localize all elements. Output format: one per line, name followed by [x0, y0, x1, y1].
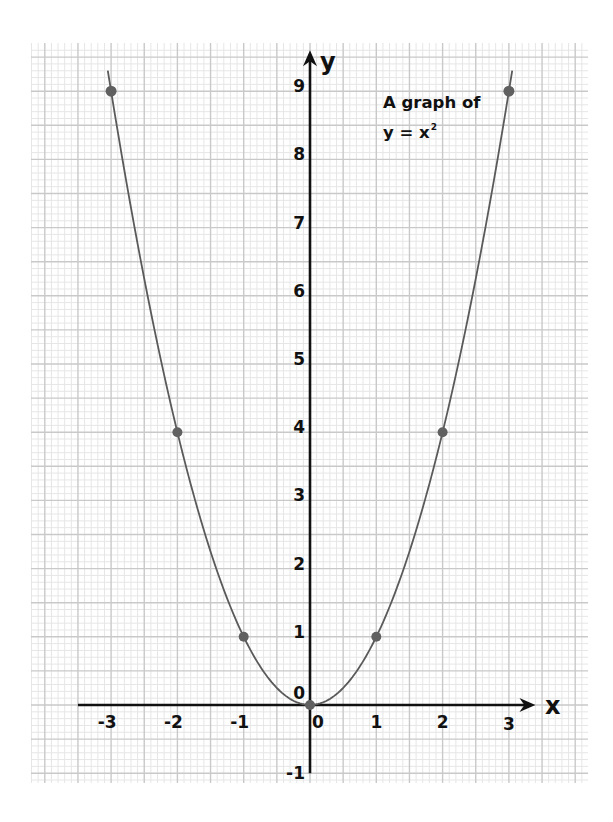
y-tick-label: 7 [293, 213, 305, 233]
x-axis-label: x [545, 692, 561, 720]
y-tick-label: 1 [293, 622, 305, 642]
y-tick-label: -1 [286, 763, 305, 783]
data-point [305, 700, 315, 710]
chart-title-exponent: 2 [431, 122, 437, 132]
data-point [371, 632, 381, 642]
y-tick-label: 8 [293, 144, 305, 164]
y-tick-label: 9 [293, 76, 305, 96]
x-tick-labels: -3-2-10123 [98, 712, 515, 734]
data-point [172, 427, 182, 437]
y-tick-label: 4 [293, 417, 305, 437]
data-point [106, 86, 117, 97]
x-tick-label: 2 [437, 712, 449, 732]
y-tick-labels: -10123456789 [286, 76, 305, 783]
y-tick-label: 6 [293, 281, 305, 301]
y-tick-label: 3 [293, 485, 305, 505]
x-tick-label: 1 [370, 712, 382, 732]
x-tick-label: -1 [230, 712, 249, 732]
data-point [438, 427, 448, 437]
y-axis-label: y [320, 48, 336, 76]
chart-title-line-2: y = x2 [383, 116, 437, 144]
y-tick-label: 0 [293, 683, 305, 703]
x-tick-label: -3 [98, 712, 117, 732]
data-point [503, 86, 514, 97]
y-tick-label: 5 [293, 349, 305, 369]
x-tick-label: -2 [164, 712, 183, 732]
x-tick-label: 0 [312, 712, 324, 732]
parabola-chart: -3-2-10123 -10123456789 x y [0, 0, 613, 822]
chart-title-line-1: A graph of [383, 92, 480, 114]
data-point [239, 632, 249, 642]
x-tick-label: 3 [503, 714, 515, 734]
chart-title-equation: y = x [383, 123, 430, 142]
y-tick-label: 2 [293, 554, 305, 574]
